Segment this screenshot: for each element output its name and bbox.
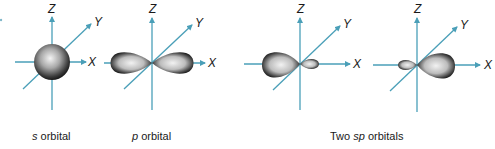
sp-large-lobe (417, 53, 455, 78)
panel-sp-orbital-2: Z Y X (373, 2, 493, 112)
p-orbital-lobe-right (152, 52, 194, 73)
x-label: X (483, 58, 493, 72)
caption-prefix: Two (330, 130, 353, 142)
p-orbital-lobe-left (111, 52, 153, 73)
z-label: Z (413, 2, 422, 16)
orbital-diagram: Z Y X Z Y X Z Y X Z Y X (0, 0, 495, 149)
panel-sp-orbital-1: Z Y X (244, 2, 362, 110)
x-label: X (352, 57, 362, 71)
caption-italic: sp (353, 130, 365, 142)
panel-p-orbital: Z Y X (104, 2, 217, 110)
y-label: Y (195, 16, 204, 30)
z-label: Z (148, 2, 157, 16)
sp-small-lobe (300, 59, 319, 69)
panel-s-orbital: Z Y X (15, 2, 103, 110)
y-label: Y (343, 17, 352, 31)
edge-mark (0, 19, 2, 21)
caption-p-orbital: p orbital (132, 130, 171, 142)
caption-sp-orbitals: Two sp orbitals (330, 130, 403, 142)
caption-text: orbital (138, 130, 171, 142)
caption-text: orbitals (365, 130, 404, 142)
x-label: X (87, 55, 97, 69)
z-label: Z (47, 2, 56, 16)
y-label: Y (94, 15, 103, 29)
sp-large-lobe (262, 52, 300, 77)
caption-text: orbital (38, 130, 71, 142)
x-label: X (207, 56, 217, 70)
caption-s-orbital: s orbital (32, 130, 71, 142)
s-orbital-sphere (34, 44, 70, 80)
z-label: Z (296, 2, 305, 16)
y-label: Y (460, 18, 469, 32)
